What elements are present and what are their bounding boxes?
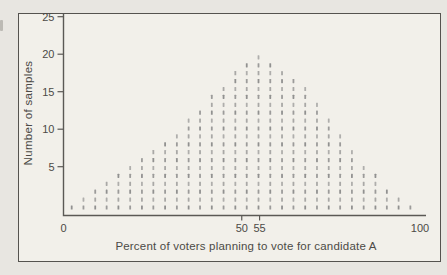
svg-text:25: 25: [42, 11, 54, 23]
svg-text:50: 50: [236, 222, 248, 234]
svg-text:10: 10: [42, 123, 54, 135]
y-axis-title: Number of samples: [22, 61, 34, 166]
x-axis-title: Percent of voters planning to vote for c…: [115, 240, 376, 252]
svg-text:5: 5: [48, 161, 54, 173]
svg-text:0: 0: [60, 222, 66, 234]
svg-text:55: 55: [253, 222, 265, 234]
svg-text:20: 20: [42, 48, 54, 60]
svg-text:15: 15: [42, 86, 54, 98]
svg-text:100: 100: [411, 222, 429, 234]
figure-page: 51015202505055100 Number of samples Perc…: [0, 0, 447, 275]
dot-histogram-chart: 51015202505055100: [0, 0, 447, 275]
